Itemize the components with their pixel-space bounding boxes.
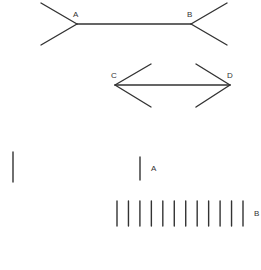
- fin-c-lower: [115, 85, 151, 107]
- fin-b-lower: [191, 24, 227, 45]
- label-b: B: [187, 10, 192, 19]
- label-filled-a: A: [151, 164, 157, 173]
- fin-d-upper: [196, 64, 230, 85]
- filled-space-b: B: [117, 201, 259, 226]
- fin-a-lower: [41, 24, 77, 45]
- fin-c-upper: [115, 64, 151, 85]
- fin-d-lower: [196, 85, 230, 107]
- label-d: D: [227, 71, 233, 80]
- fin-b-upper: [191, 3, 227, 24]
- muller-lyer-ab: A B: [41, 3, 227, 45]
- muller-lyer-cd: C D: [111, 64, 233, 107]
- illusion-diagram: A B C D A B: [0, 0, 261, 270]
- label-c: C: [111, 71, 117, 80]
- label-a: A: [73, 10, 79, 19]
- fin-a-upper: [41, 3, 77, 24]
- label-filled-b: B: [254, 209, 259, 218]
- filled-space-a: A: [13, 152, 157, 182]
